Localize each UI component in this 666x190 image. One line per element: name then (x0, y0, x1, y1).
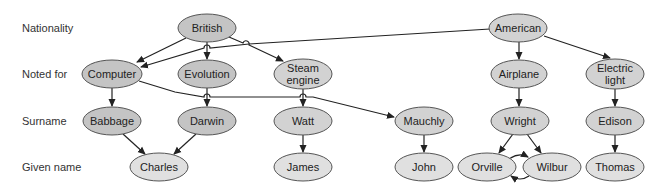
edge-orville-wilbur (509, 155, 528, 159)
node-wright: Wright (491, 107, 549, 135)
node-label: Electric (597, 62, 634, 74)
node-airplane: Airplane (491, 60, 547, 88)
node-label: Steam (287, 62, 319, 74)
edge-babbage-charles (123, 134, 145, 154)
row-label-surname: Surname (22, 115, 67, 127)
edge-darwin-charles (174, 134, 196, 154)
node-label: Computer (88, 68, 137, 80)
node-label: Wright (504, 115, 536, 127)
node-label: James (287, 161, 320, 173)
node-evolution: Evolution (178, 60, 236, 88)
node-label: Orville (471, 161, 502, 173)
edge-british-computer (137, 38, 186, 62)
node-thomas: Thomas (586, 153, 644, 181)
node-electric: Electriclight (586, 59, 644, 89)
node-john: John (395, 153, 453, 181)
node-label: Mauchly (404, 115, 445, 127)
node-orville: Orville (458, 153, 516, 181)
nodes: BritishAmericanComputerEvolutionSteameng… (82, 14, 644, 181)
node-label: Evolution (184, 68, 229, 80)
node-wilbur: Wilbur (523, 153, 581, 181)
node-label: Wilbur (536, 161, 568, 173)
node-label: Edison (598, 115, 632, 127)
node-label: Babbage (90, 115, 134, 127)
node-label: Charles (140, 161, 178, 173)
node-label: John (412, 161, 436, 173)
edge-wilbur-orville (511, 176, 529, 179)
edge-computer-mauchly (139, 81, 394, 117)
node-watt: Watt (274, 107, 332, 135)
row-label-given-name: Given name (22, 161, 81, 173)
node-edison: Edison (586, 107, 644, 135)
node-british: British (178, 14, 236, 42)
row-label-noted-for: Noted for (22, 68, 68, 80)
node-label: Darwin (190, 115, 224, 127)
node-american: American (489, 14, 547, 42)
node-mauchly: Mauchly (395, 107, 453, 135)
node-babbage: Babbage (83, 107, 141, 135)
node-steam: Steamengine (274, 59, 332, 89)
node-label: American (495, 22, 541, 34)
node-label: engine (286, 74, 319, 86)
row-label-nationality: Nationality (22, 22, 74, 34)
node-computer: Computer (82, 60, 142, 88)
node-darwin: Darwin (178, 107, 236, 135)
node-james: James (274, 153, 332, 181)
node-label: light (605, 74, 625, 86)
edge-wright-wilbur (527, 134, 541, 153)
edge-wright-orville (499, 134, 513, 153)
semantic-network-diagram: Nationality Noted for Surname Given name… (0, 0, 666, 190)
node-label: Watt (292, 115, 314, 127)
node-label: British (192, 22, 223, 34)
edge-british-steam (229, 37, 283, 61)
node-label: Airplane (499, 68, 539, 80)
edge-american-electric (544, 36, 610, 58)
node-charles: Charles (130, 153, 188, 181)
node-label: Thomas (595, 161, 635, 173)
